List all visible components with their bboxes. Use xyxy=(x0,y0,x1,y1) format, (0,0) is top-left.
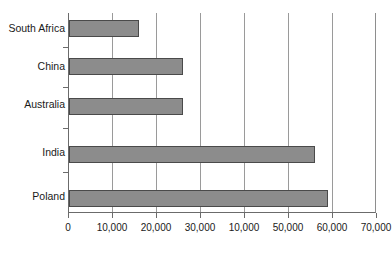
x-axis-tick xyxy=(244,213,245,218)
x-axis-label-60000: 60,000 xyxy=(317,222,348,234)
x-axis-tick xyxy=(376,213,377,218)
bar-india xyxy=(69,146,315,163)
bar-china xyxy=(69,58,183,75)
bar-south-africa xyxy=(69,20,139,37)
bar-poland xyxy=(69,190,328,207)
gridline-30000 xyxy=(200,13,201,212)
y-axis-label-india: India xyxy=(42,146,65,158)
x-axis-label-30000: 30,000 xyxy=(185,222,216,234)
x-axis-tick xyxy=(200,213,201,218)
y-axis-label-australia: Australia xyxy=(24,98,65,110)
gridline-50000 xyxy=(288,13,289,212)
y-axis-label-poland: Poland xyxy=(32,190,65,202)
x-axis-label-20000: 20,000 xyxy=(141,222,172,234)
x-axis-label-40000: 10,000 xyxy=(229,222,260,234)
gridline-40000 xyxy=(244,13,245,212)
plot-area xyxy=(68,13,376,213)
x-axis-tick xyxy=(68,213,69,218)
x-axis-tick xyxy=(288,213,289,218)
x-axis-label-10000: 10,000 xyxy=(97,222,128,234)
x-axis-label-70000: 70,000 xyxy=(361,222,392,234)
y-axis-label-south-africa: South Africa xyxy=(8,22,65,34)
x-axis-tick xyxy=(156,213,157,218)
x-axis-label-0: 0 xyxy=(65,222,71,234)
x-axis-tick xyxy=(112,213,113,218)
gridline-60000 xyxy=(332,13,333,212)
bar-australia xyxy=(69,98,183,115)
y-axis-label-china: China xyxy=(38,60,65,72)
bar-chart: South Africa China Australia India Polan… xyxy=(0,0,392,253)
x-axis-label-50000: 50,000 xyxy=(273,222,304,234)
x-axis-tick xyxy=(332,213,333,218)
